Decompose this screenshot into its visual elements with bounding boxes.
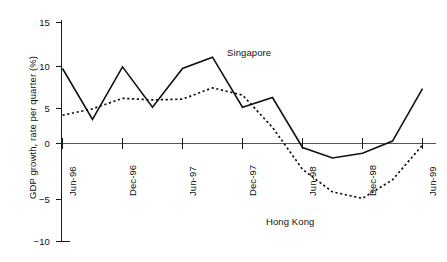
y-tick-label-neg10: −10 bbox=[12, 236, 50, 247]
x-tick-label-jun-96: Jun-96 bbox=[67, 166, 78, 196]
y-tick-label-neg5: −5 bbox=[16, 194, 50, 205]
series-label-hong-kong: Hong Kong bbox=[266, 216, 314, 227]
x-tick-label-jun-98: Jun-98 bbox=[307, 166, 318, 196]
x-tick-label-jun-99: Jun-99 bbox=[427, 166, 438, 196]
y-tick-label-0: 0 bbox=[16, 138, 50, 149]
y-tick-label-5: 5 bbox=[16, 103, 50, 114]
y-tick-label-15: 15 bbox=[16, 17, 50, 28]
series-label-singapore: Singapore bbox=[227, 47, 271, 58]
x-tick-label-dec-98: Dec-98 bbox=[367, 165, 378, 196]
x-tick-label-dec-97: Dec-97 bbox=[247, 165, 258, 196]
y-tick-label-10: 10 bbox=[16, 61, 50, 72]
x-tick-label-dec-96: Dec-96 bbox=[127, 165, 138, 196]
chart-plot-area bbox=[0, 0, 447, 262]
y-tick-marks bbox=[56, 23, 62, 242]
x-tick-label-jun-97: Jun-97 bbox=[187, 166, 198, 196]
chart-figure: GDP growth, rate per quarter (%) 15 10 5… bbox=[0, 0, 447, 262]
y-axis-line bbox=[62, 20, 71, 242]
